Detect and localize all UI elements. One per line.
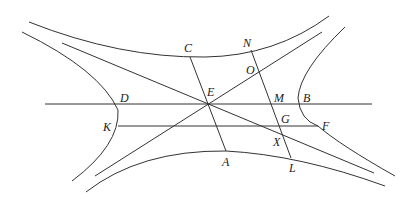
- left-branch: [22, 32, 118, 181]
- label-L: L: [289, 162, 296, 174]
- label-F: F: [322, 120, 329, 132]
- upper-branch: [29, 16, 329, 57]
- label-O: O: [246, 64, 255, 76]
- asymptote-2: [62, 43, 374, 173]
- label-X: X: [273, 136, 280, 148]
- label-N: N: [243, 37, 251, 49]
- right-branch: [298, 27, 395, 176]
- label-M: M: [274, 92, 284, 104]
- label-D: D: [120, 92, 129, 104]
- label-K: K: [103, 121, 111, 133]
- label-E: E: [207, 86, 214, 98]
- label-C: C: [184, 42, 192, 54]
- hyperbola-diagram: C N O E D M B K G F X A L: [0, 0, 417, 199]
- label-B: B: [303, 92, 310, 104]
- label-G: G: [281, 113, 290, 125]
- diagram-canvas: [0, 0, 417, 199]
- lower-branch: [86, 151, 385, 192]
- label-A: A: [222, 156, 229, 168]
